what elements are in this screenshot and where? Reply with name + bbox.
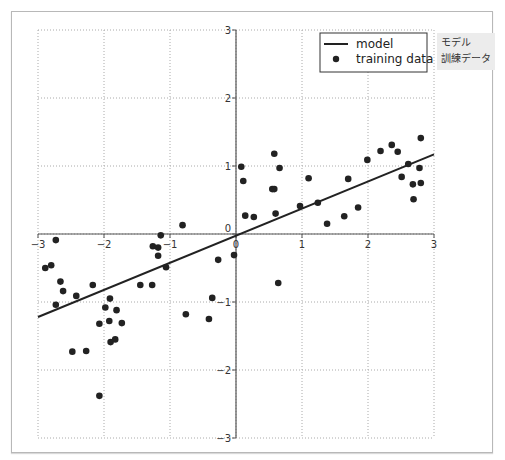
data-point xyxy=(410,181,417,188)
y-tick-label: −1 xyxy=(216,297,231,308)
data-point xyxy=(106,318,113,325)
data-point xyxy=(107,295,114,302)
legend-training-label: training data xyxy=(356,52,433,66)
data-point xyxy=(271,186,278,193)
data-point xyxy=(69,348,76,355)
data-point xyxy=(209,295,216,302)
data-point xyxy=(206,316,213,323)
data-point xyxy=(271,150,278,157)
data-point xyxy=(418,180,425,187)
data-point xyxy=(276,165,283,172)
data-point xyxy=(418,135,425,142)
data-point xyxy=(179,222,186,229)
data-point xyxy=(398,174,405,181)
data-point xyxy=(48,262,55,269)
data-point xyxy=(272,210,279,217)
x-tick-label: 3 xyxy=(431,239,437,250)
data-point xyxy=(231,252,238,259)
training-data-jp-label: 訓練データ xyxy=(441,51,491,67)
model-jp-label: モデル xyxy=(441,35,491,51)
y-tick-label: 3 xyxy=(225,25,231,36)
training-data-points xyxy=(42,135,424,399)
data-point xyxy=(215,257,222,264)
data-point xyxy=(238,163,245,170)
y-tick-label: 0 xyxy=(225,223,231,234)
data-point xyxy=(240,178,247,185)
data-point xyxy=(416,165,423,172)
x-tick-label: 0 xyxy=(233,239,239,250)
data-point xyxy=(89,282,96,289)
x-tick-label: −1 xyxy=(163,239,178,250)
data-point xyxy=(137,282,144,289)
data-point xyxy=(73,293,80,300)
y-tick-label: 1 xyxy=(225,161,231,172)
x-tick-label: −3 xyxy=(31,239,46,250)
legend-dot-icon xyxy=(333,56,339,62)
x-tick-label: 2 xyxy=(365,239,371,250)
y-tick-label: −2 xyxy=(216,365,231,376)
data-point xyxy=(242,212,249,219)
data-point xyxy=(155,244,162,251)
data-point xyxy=(149,282,156,289)
data-point xyxy=(355,204,362,211)
y-tick-label: 2 xyxy=(225,93,231,104)
data-point xyxy=(102,304,109,311)
data-point xyxy=(364,157,371,164)
data-point xyxy=(96,320,103,327)
data-point xyxy=(324,221,331,228)
data-point xyxy=(341,213,348,220)
data-point xyxy=(96,393,103,400)
data-point xyxy=(377,148,384,155)
scatter-plot: −3−2−10123−3−2−11230 model training data xyxy=(0,0,505,460)
japanese-annotations: モデル 訓練データ xyxy=(437,33,495,70)
axes xyxy=(38,30,434,438)
data-point xyxy=(163,264,170,271)
y-tick-label: −3 xyxy=(216,433,231,444)
data-point xyxy=(83,348,90,355)
legend: model training data xyxy=(320,33,433,72)
x-tick-label: 1 xyxy=(299,239,305,250)
data-point xyxy=(305,175,312,182)
data-point xyxy=(345,176,352,183)
data-point xyxy=(57,278,64,285)
data-point xyxy=(275,280,282,287)
data-point xyxy=(155,252,162,259)
data-point xyxy=(315,199,322,206)
data-point xyxy=(388,142,395,149)
data-point xyxy=(60,288,67,295)
data-point xyxy=(53,237,60,244)
data-point xyxy=(42,265,49,272)
data-point xyxy=(53,301,60,308)
data-point xyxy=(297,203,304,210)
data-point xyxy=(112,336,119,343)
data-point xyxy=(119,320,126,327)
data-point xyxy=(183,311,190,318)
data-point xyxy=(157,232,164,239)
data-point xyxy=(405,161,412,168)
x-tick-label: −2 xyxy=(97,239,112,250)
data-point xyxy=(113,307,120,314)
legend-model-label: model xyxy=(356,37,393,51)
data-point xyxy=(394,148,401,155)
data-point xyxy=(410,196,417,203)
data-point xyxy=(251,214,258,221)
